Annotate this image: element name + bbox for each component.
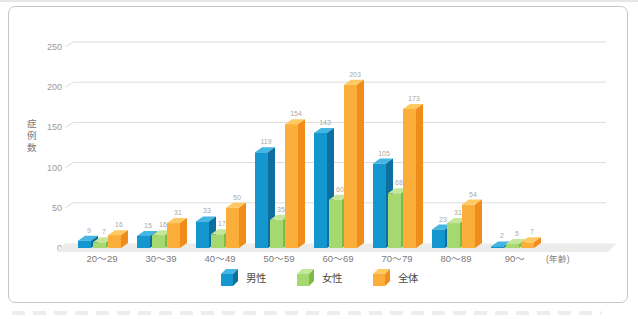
- legend-cube-male-icon: [220, 268, 240, 287]
- data-label: 7: [530, 228, 534, 235]
- bar: [226, 208, 239, 248]
- y-axis-title: 症例数: [26, 119, 36, 155]
- x-category-label: 70〜79: [381, 253, 412, 264]
- data-label: 105: [378, 150, 390, 157]
- bar: [521, 242, 534, 248]
- bar: [388, 193, 401, 248]
- bar: [167, 223, 180, 248]
- legend-cube-total-icon: [372, 268, 392, 287]
- data-label: 33: [203, 207, 211, 214]
- bar: [329, 200, 342, 248]
- bar: [93, 242, 106, 248]
- data-label: 203: [349, 71, 361, 78]
- data-label: 7: [102, 228, 106, 235]
- bar-group-6: [432, 200, 482, 248]
- cropped-caption-artifact: [12, 311, 602, 315]
- bar: [506, 244, 519, 248]
- bar-group-7: [491, 237, 541, 248]
- bar: [344, 85, 357, 248]
- data-label: 119: [260, 138, 271, 145]
- bar: [270, 220, 283, 248]
- legend-label-total: 全体: [398, 270, 418, 285]
- bar: [108, 235, 121, 248]
- y-tick-label: 200: [47, 82, 62, 92]
- bar-group-4: [314, 80, 364, 248]
- data-label: 5: [515, 230, 519, 237]
- data-label: 54: [469, 191, 477, 198]
- legend: 男性 女性 全体: [0, 268, 638, 287]
- bar: [196, 221, 209, 248]
- data-label: 16: [115, 221, 123, 228]
- data-label: 143: [319, 119, 331, 126]
- x-category-label: 30〜39: [145, 253, 176, 264]
- data-label: 154: [290, 110, 302, 117]
- data-label: 9: [87, 227, 91, 234]
- bar: [432, 230, 445, 248]
- legend-item-male: 男性: [220, 268, 266, 287]
- bar: [137, 236, 150, 248]
- x-category-label: 40〜49: [204, 253, 235, 264]
- y-tick-label: 50: [52, 203, 62, 213]
- bar: [78, 241, 91, 248]
- data-label: 16: [159, 221, 167, 228]
- legend-label-female: 女性: [322, 270, 342, 285]
- bar: [462, 205, 475, 248]
- legend-item-female: 女性: [296, 268, 342, 287]
- data-label: 35: [277, 206, 285, 213]
- x-category-label: 80〜89: [440, 253, 471, 264]
- bar: [314, 133, 327, 248]
- x-axis-unit-label: (年齢): [546, 254, 570, 264]
- y-tick-label: 250: [47, 42, 62, 52]
- x-category-label: 90〜: [505, 253, 526, 264]
- bar: [491, 246, 504, 248]
- data-label: 50: [233, 194, 241, 201]
- data-label: 68: [395, 179, 403, 186]
- y-tick-label: 100: [47, 163, 62, 173]
- data-label: 23: [439, 216, 447, 223]
- bar: [255, 152, 268, 248]
- data-label: 15: [144, 222, 152, 229]
- x-category-label: 20〜29: [86, 253, 117, 264]
- legend-cube-female-icon: [296, 268, 316, 287]
- bar: [373, 164, 386, 248]
- bar: [447, 223, 460, 248]
- data-label: 17: [218, 220, 226, 227]
- data-label: 2: [500, 232, 504, 239]
- bar: [211, 234, 224, 248]
- bar: [403, 109, 416, 248]
- data-label: 31: [454, 209, 462, 216]
- x-category-label: 60〜69: [322, 253, 353, 264]
- data-label: 31: [174, 209, 182, 216]
- data-label: 60: [336, 186, 344, 193]
- bar: [285, 124, 298, 248]
- x-category-label: 50〜59: [263, 253, 294, 264]
- data-label: 173: [408, 95, 420, 102]
- legend-item-total: 全体: [372, 268, 418, 287]
- y-tick-label: 150: [47, 122, 62, 132]
- bar-group-5: [373, 104, 423, 248]
- bar: [152, 235, 165, 248]
- legend-label-male: 男性: [246, 270, 266, 285]
